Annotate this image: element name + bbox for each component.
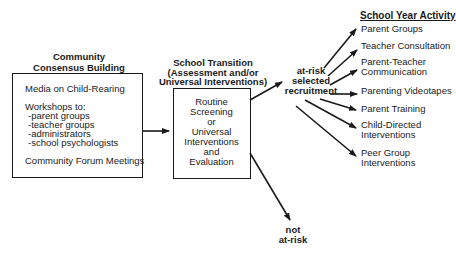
activity-parent-teacher: Parent-Teacher Communication — [361, 57, 427, 76]
box-line: Evaluation — [174, 157, 249, 167]
arrow-to-parent-groups — [324, 29, 356, 68]
forum-text: Community Forum Meetings — [25, 155, 144, 166]
activity-peer-group: Peer Group Interventions — [361, 148, 415, 167]
community-title: Community Consensus Building — [25, 51, 133, 73]
activity-line: Communication — [361, 67, 427, 77]
transition-title-line3: Universal Interventions) — [158, 77, 268, 87]
workshop-item: -school psychologists — [28, 137, 118, 148]
community-box: Media on Child-Rearing Workshops to: -pa… — [12, 73, 143, 178]
not-at-risk-line: at-risk — [275, 235, 311, 245]
arrow-to-child-directed — [305, 100, 356, 128]
media-text: Media on Child-Rearing — [25, 83, 125, 94]
transition-box: Routine Screening or Universal Intervent… — [173, 88, 251, 179]
at-risk-label: at-risk selected recruitment — [283, 66, 339, 96]
transition-title: School Transition (Assessment and/or Uni… — [158, 58, 268, 87]
activity-teacher-consultation: Teacher Consultation — [361, 40, 450, 51]
activity-line: Interventions — [361, 158, 415, 168]
activity-line: Interventions — [361, 130, 421, 140]
activity-child-directed: Child-Directed Interventions — [361, 120, 421, 139]
community-title-line2: Consensus Building — [25, 62, 133, 73]
activity-parenting-videotapes: Parenting Videotapes — [361, 85, 452, 96]
school-year-heading: School Year Activity — [360, 10, 456, 21]
arrow-to-parent-training — [320, 99, 356, 110]
not-at-risk-label: not at-risk — [275, 225, 311, 245]
transition-box-text: Routine Screening or Universal Intervent… — [174, 97, 249, 167]
arrow-transition-to-notatrisk — [250, 153, 290, 220]
arrow-to-peer-group — [296, 106, 356, 156]
at-risk-line: recruitment — [283, 86, 339, 96]
activity-parent-groups: Parent Groups — [361, 23, 423, 34]
activity-parent-training: Parent Training — [361, 103, 425, 114]
community-title-line1: Community — [25, 51, 133, 62]
